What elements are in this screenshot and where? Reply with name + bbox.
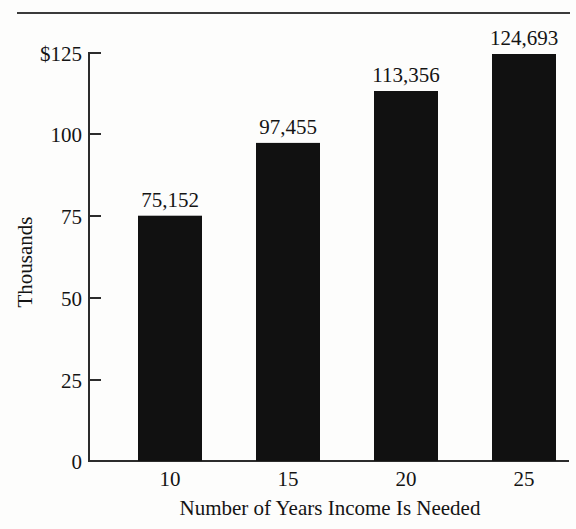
x-tick-label-10: 10 (160, 467, 181, 491)
bars-group (138, 54, 556, 461)
x-tick-label-25: 25 (514, 467, 535, 491)
bar-20 (374, 91, 438, 461)
y-tick-label-100: 100 (51, 123, 83, 147)
y-axis-title: Thousands (13, 217, 37, 308)
chart-figure: $125 100 75 50 25 0 Thousands 75,152 97,… (0, 0, 576, 529)
y-tick-label-125: $125 (40, 42, 82, 66)
bar-10 (138, 216, 202, 461)
x-tick-label-15: 15 (278, 467, 299, 491)
y-axis-tick-labels: $125 100 75 50 25 0 (40, 42, 82, 474)
y-tick-label-25: 25 (61, 369, 82, 393)
bar-label-15: 97,455 (259, 115, 317, 139)
y-tick-label-50: 50 (61, 287, 82, 311)
bar-25 (492, 54, 556, 461)
bar-label-10: 75,152 (141, 188, 199, 212)
x-axis-title: Number of Years Income Is Needed (180, 496, 481, 520)
y-tick-label-0: 0 (72, 450, 83, 474)
y-axis-ticks (89, 53, 101, 380)
bar-15 (256, 143, 320, 461)
x-tick-label-20: 20 (396, 467, 417, 491)
bar-label-25: 124,693 (490, 26, 558, 50)
bar-chart-plot: $125 100 75 50 25 0 Thousands 75,152 97,… (0, 0, 576, 529)
y-tick-label-75: 75 (61, 205, 82, 229)
bar-label-20: 113,356 (372, 63, 439, 87)
x-axis-tick-labels: 10 15 20 25 (160, 467, 535, 491)
